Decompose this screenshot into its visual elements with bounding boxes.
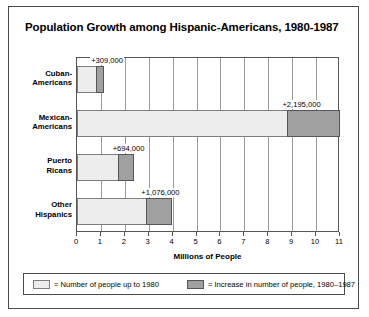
- chart-legend: = Number of people up to 1980 = Increase…: [23, 273, 345, 295]
- category-label-line: Americans: [10, 78, 72, 88]
- gridline: [173, 58, 174, 231]
- x-tick: [124, 232, 125, 236]
- gridline: [197, 58, 198, 231]
- gridline: [292, 58, 293, 231]
- gridline: [220, 58, 221, 231]
- bar-group: [77, 110, 340, 137]
- chart-figure: Population Growth among Hispanic-America…: [8, 6, 359, 309]
- x-tick-label: 2: [122, 237, 126, 246]
- legend-label-increase: = Increase in number of people, 1980–198…: [208, 280, 355, 289]
- gridline: [316, 58, 317, 231]
- bar-segment-increase: [287, 110, 339, 137]
- category-label-line: Ricans: [10, 166, 72, 176]
- bar-segment-increase: [146, 198, 172, 225]
- bar-data-label: +2,195,000: [281, 100, 321, 109]
- legend-label-base: = Number of people up to 1980: [54, 280, 159, 289]
- x-axis: 01234567891011: [76, 232, 339, 250]
- x-tick: [76, 232, 77, 236]
- category-label-line: Hispanics: [10, 210, 72, 220]
- x-tick: [243, 232, 244, 236]
- x-tick-label: 7: [241, 237, 245, 246]
- category-label-line: Mexican-: [10, 113, 72, 123]
- bar-group: [77, 154, 134, 181]
- category-label: Cuban-Americans: [10, 69, 72, 88]
- legend-swatch-base: [33, 280, 50, 289]
- plot-area: +309,000+2,195,000+694,000+1,076,000: [76, 57, 339, 232]
- category-label: Mexican-Americans: [10, 113, 72, 132]
- x-tick-label: 1: [98, 237, 102, 246]
- x-axis-title: Millions of People: [76, 252, 339, 261]
- bar-data-label: +694,000: [112, 144, 146, 153]
- x-tick: [267, 232, 268, 236]
- chart-title: Population Growth among Hispanic-America…: [25, 21, 339, 33]
- x-tick-label: 8: [265, 237, 269, 246]
- x-tick: [219, 232, 220, 236]
- bar-segment-base: [77, 110, 287, 137]
- x-tick: [315, 232, 316, 236]
- x-tick-label: 11: [335, 237, 343, 246]
- bar-data-label: +1,076,000: [140, 188, 180, 197]
- x-tick: [100, 232, 101, 236]
- category-label: PuertoRicans: [10, 156, 72, 175]
- bar-group: [77, 66, 104, 93]
- x-tick-label: 4: [170, 237, 174, 246]
- category-label-line: Puerto: [10, 156, 72, 166]
- category-label-line: Cuban-: [10, 69, 72, 79]
- bar-data-label: +309,000: [90, 56, 124, 65]
- x-tick-label: 10: [311, 237, 319, 246]
- x-tick-label: 0: [74, 237, 78, 246]
- legend-item-base: = Number of people up to 1980: [33, 280, 159, 289]
- category-label-line: Other: [10, 200, 72, 210]
- x-tick: [339, 232, 340, 236]
- category-label: OtherHispanics: [10, 200, 72, 219]
- x-tick: [172, 232, 173, 236]
- x-tick: [196, 232, 197, 236]
- legend-swatch-increase: [187, 280, 204, 289]
- gridline: [244, 58, 245, 231]
- x-tick: [148, 232, 149, 236]
- legend-item-increase: = Increase in number of people, 1980–198…: [187, 280, 355, 289]
- bar-group: [77, 198, 172, 225]
- category-label-line: Americans: [10, 122, 72, 132]
- bar-segment-base: [77, 198, 146, 225]
- bar-segment-base: [77, 66, 96, 93]
- x-tick-label: 3: [146, 237, 150, 246]
- bar-segment-increase: [118, 154, 135, 181]
- x-tick-label: 5: [193, 237, 197, 246]
- bar-segment-base: [77, 154, 118, 181]
- bar-segment-increase: [96, 66, 103, 93]
- gridline: [268, 58, 269, 231]
- x-tick-label: 6: [217, 237, 221, 246]
- category-axis-labels: Cuban-AmericansMexican-AmericansPuertoRi…: [9, 57, 72, 232]
- x-tick-label: 9: [289, 237, 293, 246]
- x-tick: [291, 232, 292, 236]
